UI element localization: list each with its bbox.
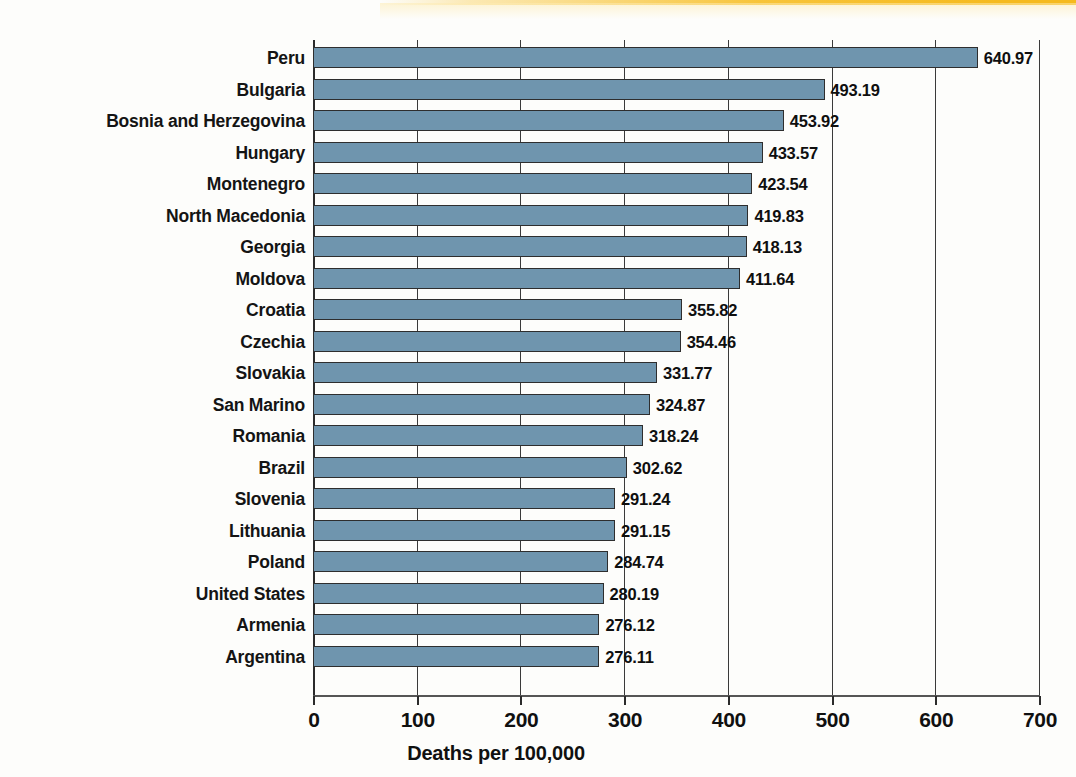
category-label: Bosnia and Herzegovina — [0, 111, 305, 132]
bar-value-label: 418.13 — [753, 238, 802, 257]
bar — [313, 268, 740, 289]
bar-value-label: 419.83 — [754, 207, 803, 226]
category-label: San Marino — [0, 395, 305, 416]
category-label: Romania — [0, 426, 305, 447]
x-tick-mark-200 — [520, 696, 522, 705]
bar — [313, 173, 752, 194]
bar — [313, 520, 615, 541]
x-tick-label-300: 300 — [608, 708, 642, 732]
bar — [313, 488, 615, 509]
x-tick-label-500: 500 — [815, 708, 849, 732]
bar-value-label: 284.74 — [614, 553, 663, 572]
category-label: North Macedonia — [0, 206, 305, 227]
bar — [313, 331, 681, 352]
x-tick-mark-0 — [313, 696, 315, 705]
bar — [313, 394, 650, 415]
bar-value-label: 433.57 — [769, 144, 818, 163]
category-label: Georgia — [0, 237, 305, 258]
x-tick-label-400: 400 — [712, 708, 746, 732]
category-label: Argentina — [0, 647, 305, 668]
x-axis-title-text: Deaths per 100,000 — [407, 742, 585, 765]
bar — [313, 457, 627, 478]
gridline-400 — [728, 40, 729, 695]
bar-value-label: 354.46 — [687, 333, 736, 352]
category-label: Lithuania — [0, 521, 305, 542]
bar-value-label: 324.87 — [656, 396, 705, 415]
category-label: United States — [0, 584, 305, 605]
gridline-700 — [1039, 40, 1040, 695]
bar — [313, 236, 747, 257]
category-label: Croatia — [0, 300, 305, 321]
category-label: Slovenia — [0, 489, 305, 510]
bar-value-label: 355.82 — [688, 301, 737, 320]
x-tick-label-600: 600 — [919, 708, 953, 732]
bar-value-label: 276.12 — [605, 616, 654, 635]
bar — [313, 142, 763, 163]
bar — [313, 362, 657, 383]
gridline-600 — [935, 40, 936, 695]
bar — [313, 551, 608, 572]
bar-value-label: 453.92 — [790, 112, 839, 131]
bar-value-label: 640.97 — [984, 49, 1033, 68]
bar-value-label: 280.19 — [610, 585, 659, 604]
category-label: Montenegro — [0, 174, 305, 195]
bar-value-label: 291.24 — [621, 490, 670, 509]
bar-value-label: 423.54 — [758, 175, 807, 194]
x-tick-label-200: 200 — [504, 708, 538, 732]
bar-chart-figure: 640.97493.19453.92433.57423.54419.83418.… — [0, 0, 1076, 777]
category-label: Armenia — [0, 615, 305, 636]
bar — [313, 646, 599, 667]
bar-value-label: 318.24 — [649, 427, 698, 446]
bar — [313, 205, 748, 226]
bar-value-label: 291.15 — [621, 522, 670, 541]
bar-value-label: 493.19 — [831, 81, 880, 100]
bar — [313, 425, 643, 446]
x-axis-line — [313, 695, 1040, 697]
category-label: Slovakia — [0, 363, 305, 384]
x-tick-mark-400 — [728, 696, 730, 705]
category-label: Bulgaria — [0, 80, 305, 101]
category-label: Czechia — [0, 332, 305, 353]
bar — [313, 614, 599, 635]
x-tick-mark-700 — [1039, 696, 1041, 705]
x-tick-mark-300 — [624, 696, 626, 705]
category-label: Moldova — [0, 269, 305, 290]
bar-value-label: 302.62 — [633, 459, 682, 478]
bar-value-label: 411.64 — [746, 270, 794, 289]
bar-value-label: 276.11 — [605, 648, 653, 667]
category-label: Hungary — [0, 143, 305, 164]
x-tick-label-100: 100 — [401, 708, 435, 732]
plot-area: 640.97493.19453.92433.57423.54419.83418.… — [313, 40, 1039, 695]
x-axis-title: Deaths per 100,000 — [0, 742, 1076, 765]
bar — [313, 583, 604, 604]
bar — [313, 110, 784, 131]
category-label: Poland — [0, 552, 305, 573]
bar — [313, 79, 825, 100]
bar — [313, 47, 978, 68]
x-tick-mark-500 — [832, 696, 834, 705]
bar — [313, 299, 682, 320]
x-tick-mark-100 — [417, 696, 419, 705]
gridline-500 — [832, 40, 833, 695]
x-tick-label-700: 700 — [1023, 708, 1057, 732]
bar-value-label: 331.77 — [663, 364, 712, 383]
x-tick-mark-600 — [935, 696, 937, 705]
category-label: Peru — [0, 48, 305, 69]
category-label: Brazil — [0, 458, 305, 479]
x-tick-label-0: 0 — [308, 708, 319, 732]
